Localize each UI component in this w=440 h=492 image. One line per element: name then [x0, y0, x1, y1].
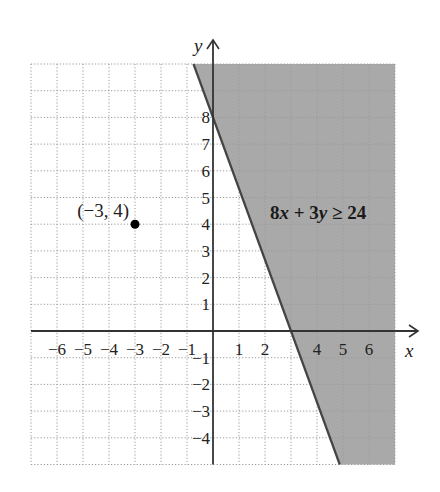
x-axis-label: x — [404, 340, 414, 361]
x-tick-label: 6 — [365, 340, 374, 359]
y-tick-label: 8 — [202, 108, 211, 127]
y-tick-label: −3 — [192, 402, 210, 421]
y-tick-label: 1 — [202, 295, 211, 314]
y-tick-label: −4 — [192, 429, 211, 448]
shaded-polygon — [194, 64, 396, 465]
y-tick-label: 5 — [202, 189, 211, 208]
y-tick-label: 2 — [202, 269, 211, 288]
y-axis-label: y — [192, 35, 203, 56]
shaded-region — [194, 64, 396, 465]
x-tick-label: 1 — [235, 340, 244, 359]
y-tick-label: −1 — [192, 349, 210, 368]
x-tick-label: 2 — [261, 340, 270, 359]
y-tick-label: 3 — [202, 242, 211, 261]
x-tick-label: −4 — [100, 340, 119, 359]
inequality-label: 8x + 3y ≥ 24 — [270, 202, 367, 223]
x-tick-label: −6 — [48, 340, 66, 359]
y-tick-label: 4 — [202, 215, 211, 234]
y-tick-label: 7 — [202, 135, 211, 154]
point-marker — [131, 220, 140, 229]
x-tick-label: 4 — [313, 340, 322, 359]
y-tick-label: −2 — [192, 375, 210, 394]
x-tick-label: 5 — [339, 340, 348, 359]
x-tick-label: −5 — [74, 340, 92, 359]
x-tick-label: −2 — [152, 340, 170, 359]
inequality-graph: −6−5−4−3−2−112456 87654321−1−2−3−4 x y (… — [0, 0, 440, 492]
x-tick-label: −3 — [126, 340, 144, 359]
point-label: (−3, 4) — [77, 200, 129, 222]
y-tick-label: 6 — [202, 162, 211, 181]
